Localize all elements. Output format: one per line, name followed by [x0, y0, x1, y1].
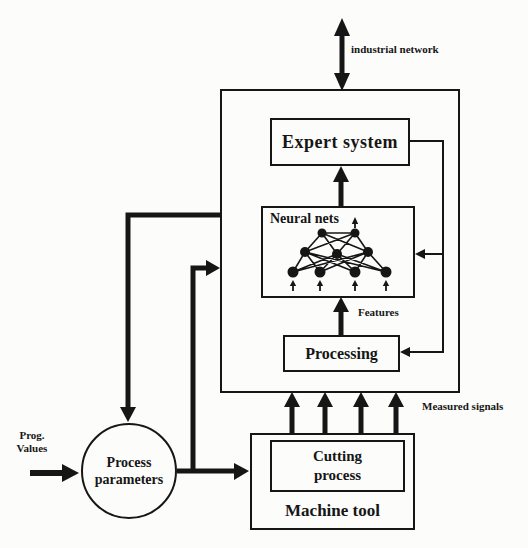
expert-system-box: Expert system — [270, 118, 410, 166]
expert-system-label: Expert system — [282, 132, 398, 153]
processing-label: Processing — [305, 345, 378, 363]
prog-values-label: Prog. Values — [6, 429, 58, 454]
system-to-parameters-arrow — [120, 215, 220, 422]
neural-nets-box: Neural nets — [261, 206, 415, 298]
measured-signals-arrows — [284, 392, 404, 433]
industrial-network-arrow — [334, 18, 350, 91]
parameters-to-system-arrow — [193, 260, 220, 471]
neural-nets-label: Neural nets — [270, 211, 339, 227]
diagram-canvas: Expert system Neural nets Processing Cut… — [0, 0, 528, 548]
industrial-network-label: industrial network — [351, 43, 439, 55]
measured-signals-label: Measured signals — [422, 400, 503, 412]
process-parameters-circle: Process parameters — [81, 423, 177, 519]
features-label: Features — [358, 306, 399, 318]
cutting-process-box: Cutting process — [270, 440, 405, 492]
parameters-to-machine-arrow — [177, 463, 249, 480]
cutting-process-label: Cutting process — [313, 447, 362, 486]
machine-tool-label: Machine tool — [250, 501, 415, 521]
processing-box: Processing — [283, 335, 400, 372]
prog-values-arrow — [30, 464, 79, 482]
